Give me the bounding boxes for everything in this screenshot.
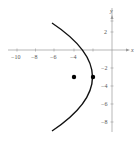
x-tick-label: −10 (11, 54, 20, 60)
focus-point (72, 75, 76, 79)
y-axis-arrow-icon (111, 15, 114, 19)
y-axis-label: y (109, 8, 113, 14)
y-tick-label: −2 (101, 65, 107, 71)
x-axis-label: x (130, 47, 134, 53)
x-tick-label: −6 (50, 54, 56, 60)
y-tick-label: −6 (101, 101, 107, 107)
parabola-chart: x y −10 −8 −6 −4 2 −2 −4 −6 −8 (0, 0, 137, 143)
x-tick-label: −4 (70, 54, 76, 60)
y-ticks: 2 −2 −4 −6 −8 (101, 21, 114, 125)
x-axis-arrow-icon (126, 49, 130, 52)
vertex-point (91, 75, 95, 79)
y-tick-label: −4 (101, 83, 107, 89)
y-tick-label: 2 (104, 29, 107, 35)
x-tick-label: −8 (31, 54, 37, 60)
y-tick-label: −8 (101, 119, 107, 125)
